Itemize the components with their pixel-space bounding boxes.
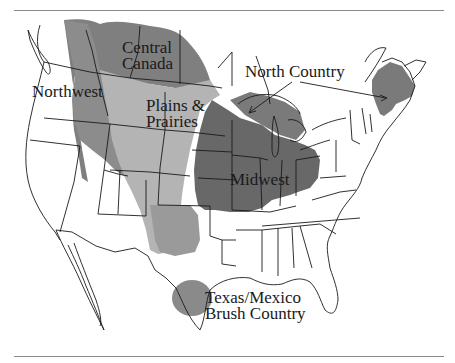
label-central-canada: Central Canada	[122, 40, 173, 72]
label-midwest: Midwest	[230, 172, 290, 188]
label-line: Midwest	[230, 172, 290, 188]
shaded-regions	[64, 19, 415, 316]
label-plains-prairies: Plains & Prairies	[146, 98, 205, 130]
label-line: Prairies	[146, 114, 205, 130]
label-line: Canada	[122, 56, 173, 72]
label-texas-mexico: Texas/Mexico Brush Country	[205, 290, 306, 322]
label-line: North Country	[245, 64, 345, 80]
label-line: Brush Country	[205, 306, 306, 322]
label-line: Northwest	[32, 84, 103, 100]
label-north-country: North Country	[245, 64, 345, 80]
label-northwest: Northwest	[32, 84, 103, 100]
